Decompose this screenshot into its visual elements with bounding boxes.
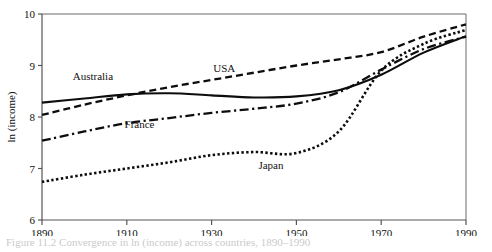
y-tick-label: 8 (30, 111, 36, 123)
series-label-japan: Japan (258, 159, 284, 171)
y-tick-label: 10 (24, 8, 36, 20)
x-tick-label: 1930 (201, 227, 224, 236)
y-tick-label: 9 (30, 60, 36, 72)
figure-caption: Figure 11.2 Convergence in ln (income) a… (6, 236, 486, 249)
y-axis-ticks: 678910 (24, 8, 42, 226)
y-axis-title: ln (income) (5, 91, 18, 142)
x-axis-ticks: 189019101930195019701990 (31, 220, 478, 236)
line-chart: 678910 189019101930195019701990 ln (inco… (0, 0, 492, 236)
series-line-france (42, 37, 466, 141)
figure-root: 678910 189019101930195019701990 ln (inco… (0, 0, 492, 252)
series-label-france: France (125, 118, 155, 130)
x-tick-label: 1890 (31, 227, 54, 236)
y-tick-label: 6 (30, 214, 36, 226)
x-tick-label: 1950 (285, 227, 308, 236)
x-tick-label: 1990 (455, 227, 478, 236)
x-tick-label: 1910 (116, 227, 139, 236)
series-label-usa: USA (213, 62, 235, 74)
series-label-australia: Australia (73, 70, 113, 82)
series-annotations: AustraliaUSAFranceJapan (73, 62, 284, 171)
y-tick-label: 7 (30, 163, 36, 175)
series-line-japan (42, 30, 466, 182)
series-group (42, 24, 466, 182)
x-tick-label: 1970 (370, 227, 393, 236)
figure-caption-strip: Figure 11.2 Convergence in ln (income) a… (0, 236, 492, 252)
